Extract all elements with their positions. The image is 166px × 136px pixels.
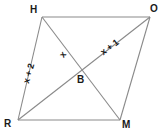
vertex-label-H: H	[30, 5, 37, 15]
vertex-label-O: O	[150, 4, 158, 14]
vertex-label-M: M	[122, 120, 130, 130]
vertex-label-B: B	[77, 75, 84, 85]
diagonal-HM	[42, 17, 120, 120]
side-OM	[120, 17, 150, 120]
geometry-diagram: H O R M B x + 2 x x + 1	[0, 0, 166, 136]
vertex-label-R: R	[4, 119, 11, 129]
diagonal-RO	[18, 17, 150, 120]
